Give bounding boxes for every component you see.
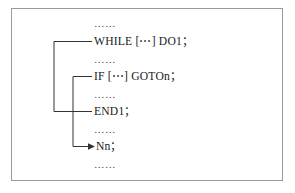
code-line-ellipsis-after-end: …… [94, 124, 116, 136]
code-line-label-nn: Nn； [96, 141, 122, 153]
code-line-while: WHILE [⋯] DO1； [94, 36, 194, 48]
code-line-ellipsis-bottom: …… [94, 159, 116, 171]
code-listing: …… WHILE [⋯] DO1； …… IF [⋯] GOTOn； …… EN… [12, 9, 282, 180]
code-line-ellipsis-top: …… [94, 18, 116, 30]
code-line-ellipsis-after-if: …… [94, 89, 116, 101]
code-line-end1: END1； [94, 106, 137, 118]
figure-panel: …… WHILE [⋯] DO1； …… IF [⋯] GOTOn； …… EN… [11, 8, 283, 181]
code-line-if-goto: IF [⋯] GOTOn； [94, 71, 182, 83]
code-line-ellipsis-after-while: …… [94, 54, 116, 66]
